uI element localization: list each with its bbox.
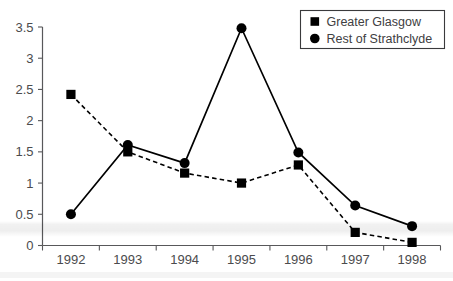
line-chart: 00.511.522.533.5 19921993199419951996199… <box>0 0 453 281</box>
chart-svg: 00.511.522.533.5 19921993199419951996199… <box>0 0 453 281</box>
legend-label: Greater Glasgow <box>327 15 422 29</box>
series-line-1 <box>71 94 412 242</box>
x-tick-label: 1992 <box>56 252 85 267</box>
y-axis-ticks <box>38 27 43 246</box>
data-point-marker <box>180 168 189 177</box>
x-tick-label: 1996 <box>284 252 313 267</box>
legend-marker-square <box>311 17 320 26</box>
x-tick-label: 1994 <box>170 252 199 267</box>
y-tick-label: 2.5 <box>15 82 33 97</box>
data-point-marker <box>350 201 360 211</box>
chart-legend: Greater GlasgowRest of Strathclyde <box>301 11 445 49</box>
y-tick-label: 3.5 <box>15 20 33 35</box>
y-axis-tick-labels: 00.511.522.533.5 <box>15 20 33 254</box>
data-point-marker <box>180 158 190 168</box>
legend-marker-circle <box>310 34 320 44</box>
legend-label: Rest of Strathclyde <box>327 32 433 46</box>
x-tick-label: 1998 <box>398 252 427 267</box>
y-tick-label: 0.5 <box>15 207 33 222</box>
data-point-marker <box>407 238 416 247</box>
y-tick-label: 1 <box>26 176 33 191</box>
series-lines <box>71 28 412 242</box>
y-tick-label: 0 <box>26 238 33 253</box>
series-markers <box>66 23 417 247</box>
data-point-marker <box>237 178 246 187</box>
data-point-marker <box>351 228 360 237</box>
x-axis-ticks <box>43 246 441 251</box>
x-tick-label: 1995 <box>227 252 256 267</box>
data-point-marker <box>294 160 303 169</box>
y-tick-label: 1.5 <box>15 144 33 159</box>
data-point-marker <box>237 23 247 33</box>
x-tick-label: 1993 <box>113 252 142 267</box>
data-point-marker <box>293 147 303 157</box>
series-line-2 <box>71 28 412 226</box>
data-point-marker <box>123 140 133 150</box>
data-point-marker <box>66 90 75 99</box>
y-tick-label: 2 <box>26 113 33 128</box>
x-tick-label: 1997 <box>341 252 370 267</box>
y-tick-label: 3 <box>26 51 33 66</box>
data-point-marker <box>407 221 417 231</box>
data-point-marker <box>66 209 76 219</box>
x-axis-tick-labels: 1992199319941995199619971998 <box>56 252 426 267</box>
